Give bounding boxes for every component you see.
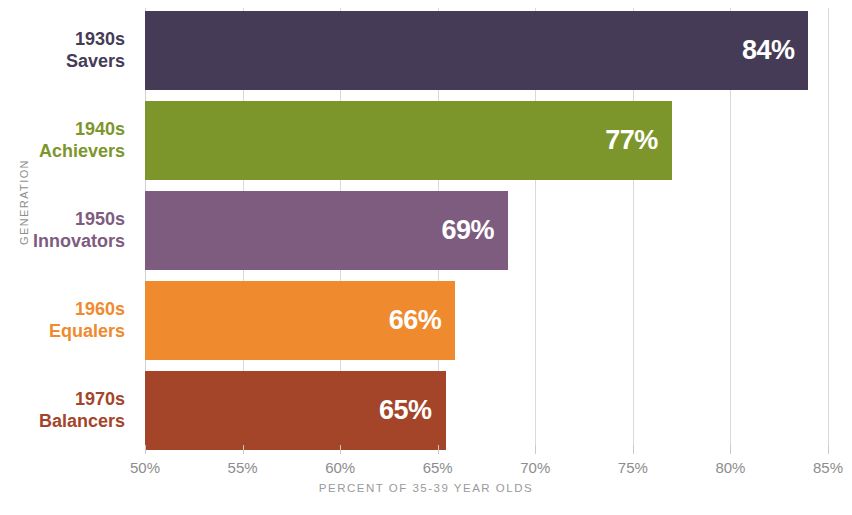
category-decade: 1970s [75,389,125,411]
bar-value-label: 69% [441,217,508,244]
bar-row: 77% [145,101,828,180]
bar-row: 66% [145,281,828,360]
x-tick-label: 65% [408,459,468,476]
bar-1970s-balancers: 65% [145,371,446,450]
bar-row: 84% [145,11,828,90]
plot-area: 84%77%69%66%65% [145,8,828,445]
category-label-1970s: 1970sBalancers [0,371,125,450]
bar-rows: 84%77%69%66%65% [145,8,828,445]
x-tick-label: 60% [310,459,370,476]
category-label-1960s: 1960sEqualers [0,281,125,360]
x-tick-label: 80% [700,459,760,476]
x-tick-mark [243,445,244,454]
category-name: Savers [66,51,125,73]
category-decade: 1960s [75,299,125,321]
bar-row: 65% [145,371,828,450]
category-label-column: 1930sSavers1940sAchievers1950sInnovators… [0,8,133,445]
x-axis-title: PERCENT OF 35-39 YEAR OLDS [0,482,852,494]
category-label-1940s: 1940sAchievers [0,101,125,180]
x-tick-label: 55% [213,459,273,476]
bar-row: 69% [145,191,828,270]
category-label-1930s: 1930sSavers [0,11,125,90]
gridline-85 [828,8,829,445]
category-name: Balancers [39,411,125,433]
x-tick-mark [535,445,536,454]
bar-value-label: 65% [379,397,446,424]
category-decade: 1950s [75,209,125,231]
x-tick-mark [730,445,731,454]
x-tick-label: 50% [115,459,175,476]
category-decade: 1930s [75,29,125,51]
category-name: Innovators [33,231,125,253]
x-tick-label: 75% [603,459,663,476]
x-tick-mark [633,445,634,454]
bar-1930s-savers: 84% [145,11,808,90]
bar-chart: GENERATION 1930sSavers1940sAchievers1950… [0,0,852,515]
category-label-1950s: 1950sInnovators [0,191,125,270]
x-tick-mark [828,445,829,454]
x-tick-label: 70% [505,459,565,476]
category-name: Achievers [39,141,125,163]
category-decade: 1940s [75,119,125,141]
bar-1950s-innovators: 69% [145,191,508,270]
bar-value-label: 66% [389,307,456,334]
x-tick-mark [340,445,341,454]
bar-1940s-achievers: 77% [145,101,672,180]
x-axis: 50%55%60%65%70%75%80%85% [145,445,828,485]
bar-value-label: 77% [605,127,672,154]
x-tick-mark [145,445,146,454]
bar-value-label: 84% [742,37,809,64]
x-tick-label: 85% [798,459,852,476]
bar-1960s-equalers: 66% [145,281,455,360]
x-tick-mark [438,445,439,454]
category-name: Equalers [49,321,125,343]
